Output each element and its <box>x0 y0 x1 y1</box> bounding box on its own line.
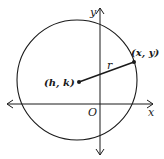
origin-label: O <box>88 106 97 119</box>
center-label: (h, k) <box>44 77 75 89</box>
circle-diagram: y x O r (h, k) (x, y) <box>0 0 164 159</box>
circle-point <box>132 60 136 64</box>
radius-label: r <box>107 59 113 72</box>
point-label: (x, y) <box>131 47 159 59</box>
y-axis <box>96 8 104 155</box>
y-axis-label: y <box>89 6 97 19</box>
circle <box>17 20 137 140</box>
center-point <box>77 80 81 84</box>
x-axis-label: x <box>148 106 155 119</box>
